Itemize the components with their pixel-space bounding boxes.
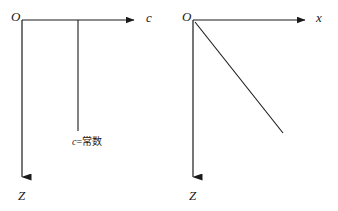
right-horizontal-axis-label: x <box>316 11 322 24</box>
right-origin-label: O <box>182 10 191 23</box>
left-horizontal-axis-label: c <box>146 11 152 24</box>
left-constant-annotation-value: =常数 <box>76 136 102 147</box>
right-vertical-axis-label: Z <box>189 189 196 202</box>
axis-diagram-figure: O c Z c=常数 O x Z <box>0 0 338 211</box>
left-panel-graphics <box>22 20 134 177</box>
right-panel-graphics <box>193 20 305 177</box>
right-diagonal-line <box>195 22 283 133</box>
left-constant-annotation: c=常数 <box>72 137 102 147</box>
left-vertical-axis-label: Z <box>18 189 25 202</box>
left-origin-label: O <box>11 10 20 23</box>
diagram-canvas <box>0 0 338 211</box>
